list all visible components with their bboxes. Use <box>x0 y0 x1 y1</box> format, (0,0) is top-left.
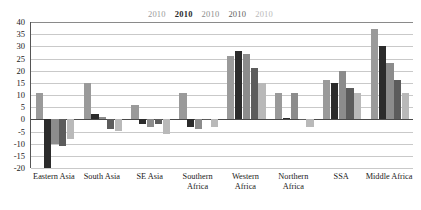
bar <box>203 119 210 120</box>
bar <box>354 93 361 120</box>
y-tick-label: -20 <box>14 164 25 173</box>
bar-chart: 20102010201020102010 4035302520151050-5-… <box>0 0 421 210</box>
legend-item-1: 2010 <box>175 9 193 19</box>
x-tick-label: Southern Africa <box>174 172 222 192</box>
x-tick-label: SE Asia <box>126 172 174 182</box>
legend-item-0: 2010 <box>148 9 166 19</box>
x-tick-label: SSA <box>317 172 365 182</box>
bar-group <box>366 22 414 168</box>
chart-legend: 20102010201020102010 <box>0 7 421 21</box>
x-tick-label: Eastern Asia <box>30 172 78 182</box>
bar-group <box>31 22 79 168</box>
bar <box>243 54 250 120</box>
y-tick-label: 15 <box>17 79 26 88</box>
bar <box>283 118 290 119</box>
bar <box>211 119 218 126</box>
plot-area <box>30 22 413 168</box>
bar <box>299 119 306 120</box>
bar <box>51 119 58 143</box>
y-axis: 4035302520151050-5-10-15-20 <box>0 22 28 168</box>
bar <box>67 119 74 138</box>
bar <box>339 71 346 120</box>
bar <box>227 56 234 119</box>
bar <box>331 83 338 120</box>
bar <box>139 119 146 124</box>
y-tick-label: 20 <box>17 66 26 75</box>
bar-series-container <box>31 22 413 168</box>
bar <box>371 29 378 119</box>
bar <box>275 93 282 120</box>
bar <box>195 119 202 129</box>
bar <box>155 119 162 124</box>
bar <box>107 119 114 129</box>
bar <box>402 93 409 120</box>
legend-item-4: 2010 <box>255 9 273 19</box>
bar-group <box>223 22 271 168</box>
x-tick-label: Middle Africa <box>365 172 413 182</box>
bar <box>379 46 386 119</box>
y-tick-label: 40 <box>17 18 26 27</box>
y-tick-label: 25 <box>17 54 26 63</box>
y-tick-label: -15 <box>14 152 25 161</box>
bar <box>235 51 242 119</box>
bar <box>131 105 138 120</box>
y-tick-label: 10 <box>17 91 26 100</box>
bar <box>346 88 353 120</box>
bar <box>251 68 258 119</box>
bar <box>386 63 393 119</box>
gridline--20 <box>31 168 413 169</box>
y-tick-label: 0 <box>21 115 25 124</box>
y-tick-label: 5 <box>21 103 25 112</box>
bar <box>91 114 98 119</box>
bar <box>115 119 122 131</box>
bar-group <box>79 22 127 168</box>
bar <box>258 83 265 120</box>
x-axis: Eastern AsiaSouth AsiaSE AsiaSouthern Af… <box>30 172 413 206</box>
y-tick-label: -5 <box>18 127 25 136</box>
x-tick-label: South Asia <box>78 172 126 182</box>
bar <box>394 80 401 119</box>
bar <box>163 119 170 134</box>
bar <box>36 93 43 120</box>
y-tick-label: 35 <box>17 30 26 39</box>
x-tick-label: Western Africa <box>222 172 270 192</box>
bar <box>291 93 298 120</box>
legend-item-3: 2010 <box>228 9 246 19</box>
bar <box>179 93 186 120</box>
legend-item-2: 2010 <box>202 9 220 19</box>
bar-group <box>127 22 175 168</box>
y-tick-label: 30 <box>17 42 26 51</box>
x-tick-label: Northern Africa <box>269 172 317 192</box>
bar <box>323 80 330 119</box>
bar-group <box>175 22 223 168</box>
y-tick-label: -10 <box>14 139 25 148</box>
bar <box>59 119 66 146</box>
bar <box>187 119 194 126</box>
bar-group <box>318 22 366 168</box>
bar <box>84 83 91 120</box>
bar <box>147 119 154 126</box>
bar <box>44 119 51 168</box>
bar <box>99 117 106 119</box>
bar-group <box>270 22 318 168</box>
bar <box>306 119 313 126</box>
